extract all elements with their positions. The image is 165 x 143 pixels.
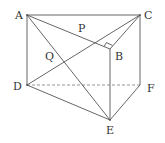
edge-DE [27, 85, 110, 120]
edge-AB [27, 15, 110, 49]
diagonal-AE [27, 15, 110, 120]
label-B: B [115, 50, 123, 63]
edge-BC [110, 15, 140, 49]
label-E: E [106, 124, 114, 137]
label-Q: Q [45, 50, 54, 63]
label-A: A [14, 9, 24, 22]
label-D: D [13, 80, 22, 93]
right-angle-marker [104, 43, 113, 47]
vertex-D [26, 84, 28, 86]
label-P: P [78, 22, 86, 35]
edge-EF [110, 85, 140, 120]
vertex-A [26, 14, 28, 16]
prism-diagram: A C B D F E P Q [0, 0, 165, 143]
vertex-E [109, 119, 111, 121]
label-F: F [147, 82, 155, 95]
vertex-C [139, 14, 141, 16]
label-C: C [144, 9, 152, 22]
